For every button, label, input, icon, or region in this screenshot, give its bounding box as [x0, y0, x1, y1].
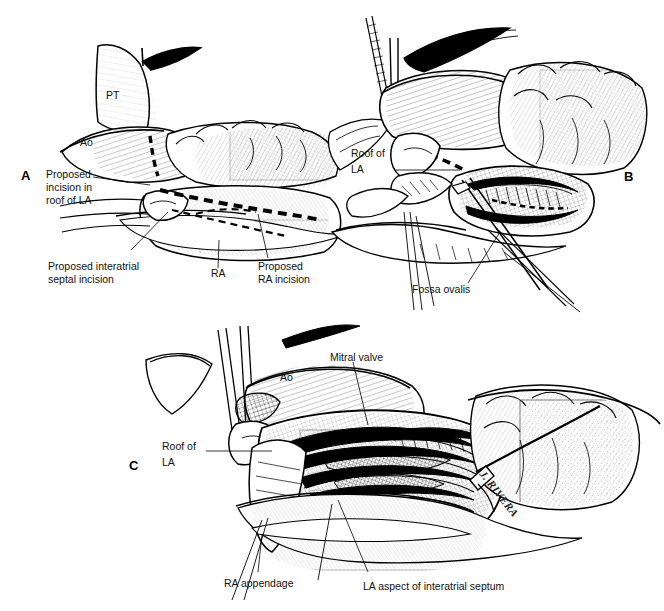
panel-letter-b: B — [624, 169, 633, 184]
label-ra-appendage: RA appendage — [224, 577, 293, 590]
panel-letter-a: A — [21, 168, 30, 183]
label-ao-a: Ao — [80, 136, 93, 149]
pt-tick-mark — [142, 48, 143, 66]
label-fossa-ovalis: Fossa ovalis — [412, 283, 470, 296]
label-septal-incision-line1: Proposed interatrial — [48, 260, 139, 273]
panel-letter-c: C — [129, 458, 138, 473]
label-ra-incision-line1: Proposed — [258, 260, 303, 273]
label-ao-c: Ao — [280, 371, 293, 384]
label-roof-la-c-line1: Roof of — [162, 440, 196, 453]
label-pt: PT — [106, 89, 119, 102]
label-la-aspect-interatrial-septum: LA aspect of interatrial septum — [363, 580, 504, 593]
label-ra-incision-line2: RA incision — [258, 273, 310, 286]
label-mitral-valve: Mitral valve — [330, 351, 383, 364]
label-proposed-roof-la-line1: Proposed — [46, 168, 91, 181]
label-roof-la-b-line2: LA — [351, 163, 364, 176]
illustration-canvas — [0, 0, 664, 611]
label-roof-la-b-line1: Roof of — [351, 147, 385, 160]
label-roof-la-c-line2: LA — [162, 456, 175, 469]
label-ra: RA — [211, 267, 226, 280]
label-proposed-roof-la-line2: incision in — [46, 181, 92, 194]
surgical-illustration-figure: A PT Ao Proposed incision in roof of LA … — [0, 0, 664, 611]
label-proposed-roof-la-line3: roof of LA — [46, 194, 92, 207]
label-septal-incision-line2: septal incision — [48, 273, 114, 286]
